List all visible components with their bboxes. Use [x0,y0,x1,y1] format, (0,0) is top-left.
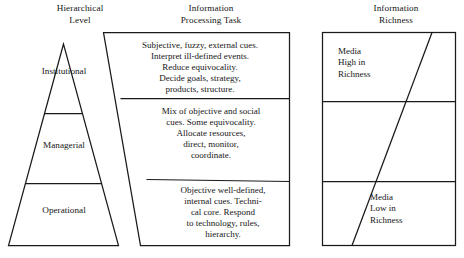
processing-task-divider-2 [147,180,290,182]
processing-task-text-institutional: Subjective, fuzzy, external cues. Interp… [110,40,290,95]
richness-text-low: Media Low in Richness [370,192,464,226]
pyramid-label-managerial: Managerial [6,140,122,151]
pyramid-label-operational: Operational [6,205,122,216]
information-richness-diagram: Hierarchical Level Information Processin… [0,0,464,258]
richness-text-high: Media High in Richness [338,46,438,80]
processing-task-text-managerial: Mix of objective and social cues. Some e… [128,106,294,161]
pyramid-label-institutional: Institutional [6,66,122,77]
processing-task-text-operational: Objective well-defined, internal cues. T… [152,185,294,240]
